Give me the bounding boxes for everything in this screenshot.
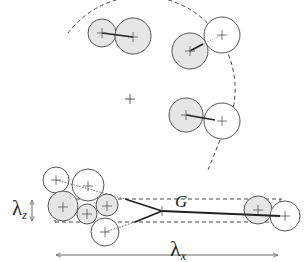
particle-pair-2 <box>172 17 240 69</box>
particle-pair-1 <box>88 18 151 54</box>
interaction-diagram <box>0 0 306 262</box>
particle-pair-3 <box>169 98 240 139</box>
lambda-x-label: λx <box>170 238 186 260</box>
cluster-particles <box>43 167 300 246</box>
cutoff-arc-tail <box>208 140 220 170</box>
center-cross-icon <box>125 94 135 104</box>
lambda-z-label: λz <box>12 198 27 219</box>
g-label: G <box>175 193 187 210</box>
